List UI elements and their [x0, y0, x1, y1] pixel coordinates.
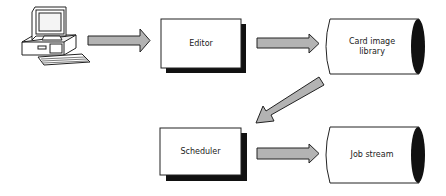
arrow-scheduler-to-jobstream: [257, 144, 319, 163]
card-library-text-line1: Card image: [349, 37, 395, 47]
editor-label: Editor: [161, 19, 241, 68]
computer-icon: [22, 7, 90, 65]
job-stream-label: Job stream: [326, 127, 418, 183]
job-stream-text: Job stream: [351, 150, 394, 160]
editor-text: Editor: [189, 39, 213, 49]
arrow-terminal-to-editor: [88, 29, 150, 52]
scheduler-label: Scheduler: [160, 128, 241, 175]
scheduler-text: Scheduler: [180, 147, 220, 157]
card-library-label: Card image library: [326, 19, 418, 74]
arrow-library-to-scheduler: [256, 77, 324, 123]
card-library-text-line2: library: [359, 47, 385, 57]
arrow-editor-to-library: [257, 34, 319, 53]
